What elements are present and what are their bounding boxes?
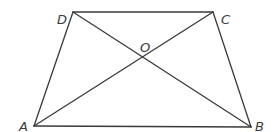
segment-ab xyxy=(34,126,251,127)
trapezoid-diagram: ABCDO xyxy=(0,0,277,132)
trapezoid-svg: ABCDO xyxy=(0,0,277,132)
edges-group xyxy=(34,12,251,127)
vertex-label-b: B xyxy=(255,119,264,132)
segment-bd xyxy=(73,12,251,127)
segment-da xyxy=(34,12,73,126)
vertex-label-a: A xyxy=(18,119,28,132)
vertex-label-c: C xyxy=(221,12,231,27)
segment-bc xyxy=(213,12,251,127)
vertex-label-d: D xyxy=(57,12,67,27)
vertex-label-o: O xyxy=(140,40,150,55)
segment-ac xyxy=(34,12,213,126)
labels-group: ABCDO xyxy=(18,12,264,132)
